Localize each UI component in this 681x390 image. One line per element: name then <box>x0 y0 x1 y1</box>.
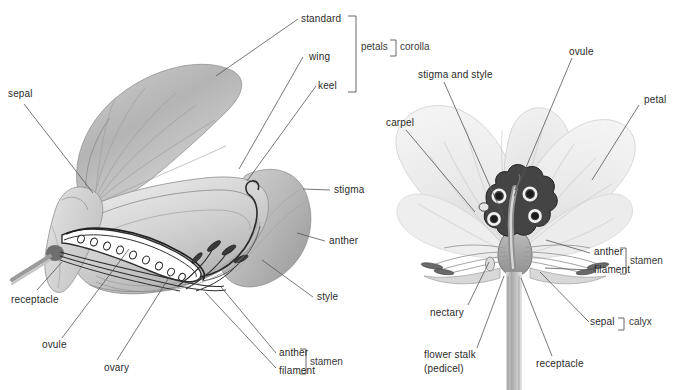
bracket-label-stamen-right: stamen <box>630 255 663 266</box>
label-ovule-right: ovule <box>569 46 594 58</box>
flower-diagram-figure: standard wing keel petals corolla sepal … <box>0 0 681 390</box>
label-flower-stalk-line2: (pedicel) <box>424 363 464 375</box>
bracket-label-corolla: corolla <box>400 41 429 52</box>
bracket-label-calyx: calyx <box>629 316 652 327</box>
label-wing: wing <box>309 51 330 63</box>
label-receptacle-right: receptacle <box>536 358 584 370</box>
bracket-label-stamen-left: stamen <box>310 356 343 367</box>
label-sepal-right: sepal <box>590 316 615 328</box>
label-stigma-left: stigma <box>334 184 364 196</box>
label-ovule-left: ovule <box>42 339 67 351</box>
label-style-left: style <box>317 291 338 303</box>
label-anther-left-lower: anther <box>279 347 308 359</box>
nectary <box>486 257 495 271</box>
label-standard: standard <box>301 13 341 25</box>
label-nectary: nectary <box>430 307 464 319</box>
label-petal-right: petal <box>644 94 666 106</box>
label-anther-right: anther <box>594 246 623 258</box>
label-carpel: carpel <box>386 117 414 129</box>
label-stigma-and-style: stigma and style <box>418 69 493 81</box>
label-sepal-left: sepal <box>8 88 33 100</box>
bracket-label-petals: petals <box>361 41 388 52</box>
label-ovary-left: ovary <box>104 362 129 374</box>
label-receptacle-left: receptacle <box>11 294 59 306</box>
label-keel: keel <box>318 80 337 92</box>
label-flower-stalk-line1: flower stalk <box>424 349 476 361</box>
label-filament-right: filament <box>594 264 630 276</box>
label-anther-left-upper: anther <box>329 235 358 247</box>
